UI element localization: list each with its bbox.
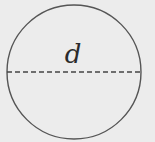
diameter-label: d (60, 40, 86, 68)
circle-diagram: d (0, 0, 155, 142)
diagram-svg (0, 0, 155, 142)
